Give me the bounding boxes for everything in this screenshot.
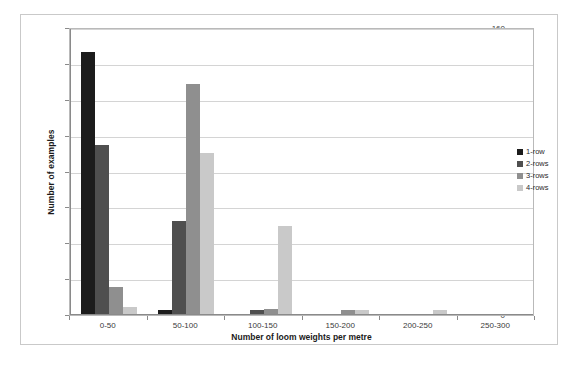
legend-swatch-icon [517,173,523,179]
bar [200,153,214,314]
legend-label: 1-row [526,147,545,156]
legend-label: 4-rows [526,183,549,192]
bar-group [81,27,137,314]
x-tick-mark [302,316,303,320]
bar-group [158,27,214,314]
x-tick-label: 150-200 [326,321,355,330]
y-axis-line [70,29,71,315]
legend-label: 3-rows [526,171,549,180]
x-tick-label: 200-250 [403,321,432,330]
x-tick-label: 0-50 [100,321,116,330]
x-tick-mark [147,316,148,320]
gridline [70,208,533,209]
x-axis-title: Number of loom weights per metre [69,332,534,342]
legend-item: 4-rows [517,182,561,193]
y-axis-title: Number of examples [46,107,56,237]
legend-swatch-icon [517,161,523,167]
x-tick-mark [457,316,458,320]
bar-group [313,27,369,314]
x-tick-mark [379,316,380,320]
legend: 1-row2-rows3-rows4-rows [517,146,561,194]
bar [123,307,137,314]
x-axis-line [70,314,533,315]
gridline [70,244,533,245]
plot-area [69,28,534,316]
chart-figure: Number of examples 020406080100120140160… [20,14,558,345]
x-tick-label: 100-150 [248,321,277,330]
x-tick-label: 50-100 [173,321,198,330]
gridline [70,65,533,66]
gridline [70,173,533,174]
gridline [70,29,533,30]
x-tick-mark [534,316,535,320]
bar [186,84,200,314]
x-tick-label: 250-300 [481,321,510,330]
legend-item: 3-rows [517,170,561,181]
x-tick-mark [224,316,225,320]
y-axis-title-wrap: Number of examples [30,28,48,316]
legend-item: 1-row [517,146,561,157]
legend-item: 2-rows [517,158,561,169]
gridline [70,101,533,102]
gridline [70,137,533,138]
bar [81,52,95,314]
bar [95,145,109,314]
bar [278,226,292,314]
legend-swatch-icon [517,185,523,191]
bar-group [236,27,292,314]
legend-label: 2-rows [526,159,549,168]
x-tick-mark [69,316,70,320]
bar-group [391,27,447,314]
bar-group [468,27,524,314]
bar [109,287,123,314]
legend-swatch-icon [517,149,523,155]
bar [172,221,186,314]
gridline [70,280,533,281]
